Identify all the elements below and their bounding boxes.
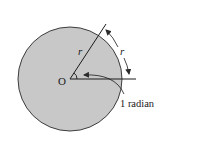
arc-length-arrow-lower (124, 58, 129, 74)
angle-label: 1 radian (120, 98, 155, 109)
center-label: O (58, 75, 66, 87)
radius-label-arc: r (120, 45, 125, 57)
radius-label-slanted: r (78, 45, 83, 57)
radian-diagram: O r r 1 radian (0, 0, 199, 146)
